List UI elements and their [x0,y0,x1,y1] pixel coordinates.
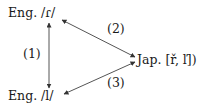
edge-1-label: (1) [23,48,41,61]
node-eng-r: Eng. /ɾ/ [8,7,55,20]
edge-2-label: (2) [107,23,125,36]
edge-3-label: (3) [107,77,125,90]
node-eng-l: Eng. /l/ [8,90,54,103]
node-jap: Jap. [ř, ľ]) [137,54,197,67]
